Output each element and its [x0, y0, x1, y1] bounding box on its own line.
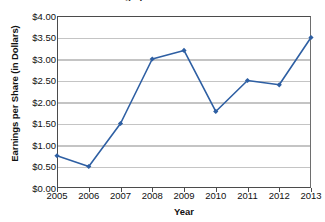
data-point-marker: [54, 153, 59, 158]
x-axis-title: Year: [57, 206, 311, 217]
data-point-marker: [150, 56, 155, 61]
series-line: [57, 38, 311, 167]
series-markers: [54, 35, 313, 169]
data-series-layer: [0, 0, 325, 222]
line-chart-figure: Earnings per Share 2005-2013 Earnings pe…: [0, 0, 325, 222]
